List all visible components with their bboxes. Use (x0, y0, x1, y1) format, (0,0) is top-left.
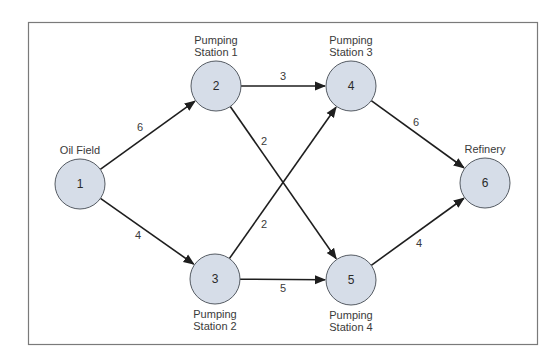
node-6: 6Refinery (460, 143, 510, 208)
edge-weight-3-5: 5 (280, 282, 286, 294)
edges-group (100, 86, 464, 280)
edge-4-to-6 (371, 101, 464, 168)
network-diagram: 64322564 1Oil Field2PumpingStation 13Pum… (0, 0, 559, 356)
node-id: 5 (348, 273, 355, 287)
node-label: Station 4 (329, 321, 372, 333)
edge-weight-1-2: 6 (137, 121, 143, 133)
edge-weight-2-4: 3 (280, 70, 286, 82)
node-id: 2 (213, 79, 220, 93)
edge-weight-2-5: 2 (261, 135, 267, 147)
node-label: Oil Field (60, 144, 100, 156)
edge-1-to-2 (100, 101, 195, 169)
edge-weight-4-6: 6 (413, 116, 419, 128)
node-3: 3PumpingStation 2 (190, 254, 240, 332)
node-id: 3 (212, 272, 219, 286)
node-id: 6 (482, 176, 489, 190)
node-label: Refinery (465, 143, 506, 155)
node-1: 1Oil Field (55, 144, 105, 209)
edge-5-to-6 (371, 198, 464, 265)
node-id: 4 (348, 79, 355, 93)
node-label: Pumping (194, 34, 237, 46)
edge-weight-1-3: 4 (135, 229, 141, 241)
node-label: Station 1 (194, 46, 237, 58)
node-id: 1 (77, 177, 84, 191)
edge-weight-5-6: 4 (416, 237, 422, 249)
node-4: 4PumpingStation 3 (326, 34, 376, 111)
node-label: Pumping (193, 308, 236, 320)
edge-1-to-3 (100, 198, 193, 264)
node-5: 5PumpingStation 4 (326, 255, 376, 333)
node-2: 2PumpingStation 1 (191, 34, 241, 111)
node-label: Station 3 (329, 46, 372, 58)
node-label: Station 2 (193, 320, 236, 332)
node-label: Pumping (329, 34, 372, 46)
edge-3-to-5 (240, 279, 325, 280)
node-label: Pumping (329, 309, 372, 321)
edge-weight-3-4: 2 (261, 218, 267, 230)
